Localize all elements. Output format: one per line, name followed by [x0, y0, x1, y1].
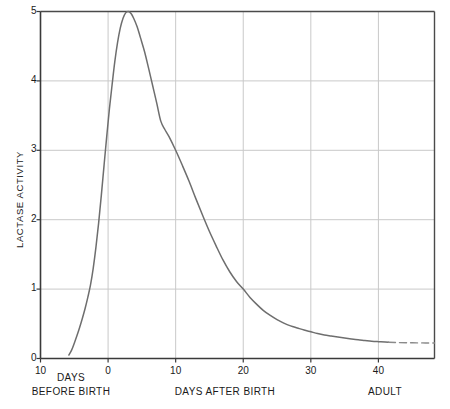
- chart-background: [0, 0, 450, 409]
- x-tick-label: 20: [233, 365, 253, 376]
- x-tick-label: 30: [301, 365, 321, 376]
- caption-days: DAYS: [38, 372, 104, 383]
- y-tick-label: 3: [25, 143, 37, 154]
- x-tick-label: 40: [368, 365, 388, 376]
- x-tick-label: 10: [166, 365, 186, 376]
- y-tick-label: 2: [25, 213, 37, 224]
- curve-adult-dashed: [389, 342, 435, 343]
- lactase-activity-chart: LACTASE ACTIVITY 012345 10010203040 DAYS…: [0, 0, 450, 409]
- y-tick-label: 0: [25, 352, 37, 363]
- y-tick-label: 1: [25, 282, 37, 293]
- y-axis-title: LACTASE ACTIVITY: [14, 151, 25, 248]
- y-tick-label: 4: [25, 74, 37, 85]
- caption-before-birth: BEFORE BIRTH: [25, 386, 117, 397]
- caption-adult: ADULT: [355, 386, 415, 397]
- caption-days-after-birth: DAYS AFTER BIRTH: [155, 386, 295, 397]
- y-tick-label: 5: [25, 5, 37, 16]
- chart-canvas: [0, 0, 450, 409]
